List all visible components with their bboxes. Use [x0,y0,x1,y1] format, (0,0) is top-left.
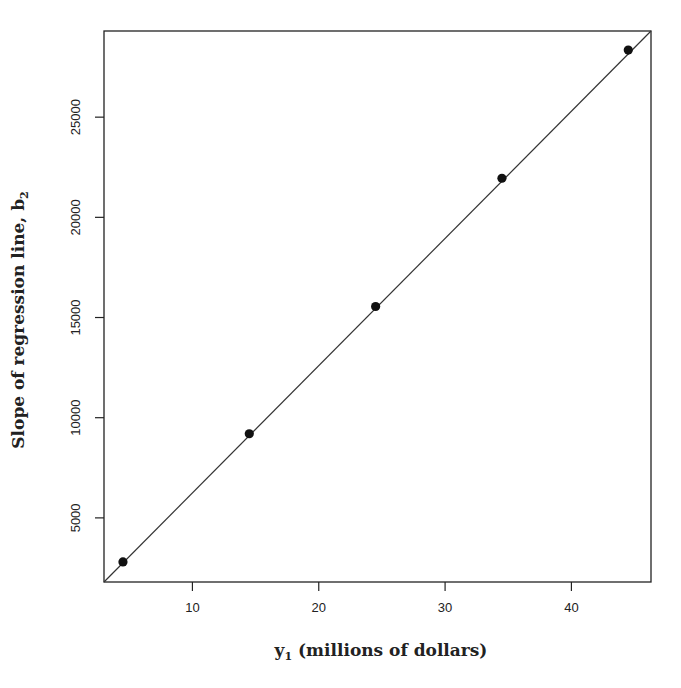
x-axis-ticks: 10203040 [185,582,578,615]
x-tick-label: 20 [312,600,326,615]
y-tick-label: 20000 [68,199,83,235]
data-point [497,174,506,183]
y-tick-label: 15000 [68,299,83,335]
y-axis-ticks: 500010000150002000025000 [68,99,104,532]
x-tick-label: 30 [438,600,452,615]
data-points [118,45,633,566]
y-axis-title: Slope of regression line, b2 [8,191,31,448]
data-point [371,302,380,311]
x-axis-title: y1 (millions of dollars) [274,640,488,663]
data-point [118,557,127,566]
y-tick-label: 10000 [68,400,83,436]
y-tick-label: 25000 [68,99,83,135]
x-tick-label: 10 [185,600,199,615]
scatter-chart: 10203040 500010000150002000025000 y1 (mi… [0,0,681,688]
y-tick-label: 5000 [68,503,83,532]
x-tick-label: 40 [564,600,578,615]
data-point [624,45,633,54]
data-point [245,429,254,438]
